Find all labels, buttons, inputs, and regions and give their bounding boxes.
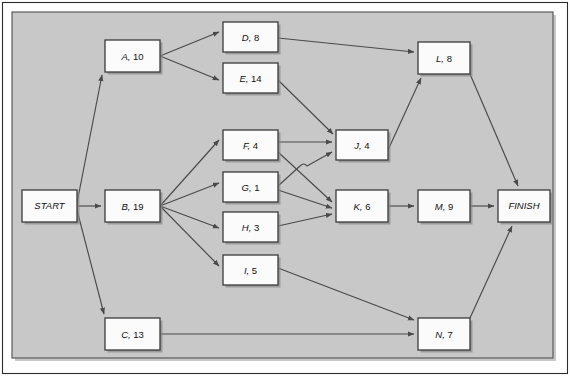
network-diagram-container: STARTA, 10B, 19C, 13D, 8E, 14F, 4G, 1H, … xyxy=(0,0,570,376)
node-label: H, 3 xyxy=(242,221,259,232)
node-h[interactable]: H, 3 xyxy=(223,212,281,245)
node-label: J, 4 xyxy=(353,139,369,150)
node-j[interactable]: J, 4 xyxy=(336,130,391,163)
node-label: A, 10 xyxy=(120,50,143,61)
node-d[interactable]: D, 8 xyxy=(223,22,281,55)
node-label: C, 13 xyxy=(121,328,144,339)
node-label: FINISH xyxy=(508,200,539,211)
node-g[interactable]: G, 1 xyxy=(223,172,281,205)
node-label: G, 1 xyxy=(242,181,260,192)
node-c[interactable]: C, 13 xyxy=(105,318,163,353)
node-b[interactable]: B, 19 xyxy=(105,190,163,225)
node-i[interactable]: I, 5 xyxy=(223,255,281,288)
node-e[interactable]: E, 14 xyxy=(223,63,281,96)
node-label: N, 7 xyxy=(435,328,452,339)
node-label: I, 5 xyxy=(244,264,257,275)
node-label: E, 14 xyxy=(239,72,261,83)
node-f[interactable]: F, 4 xyxy=(223,130,281,163)
node-start[interactable]: START xyxy=(22,190,80,225)
network-diagram-canvas: STARTA, 10B, 19C, 13D, 8E, 14F, 4G, 1H, … xyxy=(0,0,570,376)
node-l[interactable]: L, 8 xyxy=(418,42,473,77)
node-n[interactable]: N, 7 xyxy=(418,318,473,353)
node-m[interactable]: M, 9 xyxy=(418,190,473,225)
node-finish[interactable]: FINISH xyxy=(498,190,553,225)
node-k[interactable]: K, 6 xyxy=(336,190,391,225)
node-label: D, 8 xyxy=(242,31,259,42)
node-label: START xyxy=(34,200,65,211)
node-label: F, 4 xyxy=(243,139,258,150)
node-label: M, 9 xyxy=(435,200,454,211)
node-a[interactable]: A, 10 xyxy=(105,40,163,75)
node-label: L, 8 xyxy=(436,52,452,63)
node-label: K, 6 xyxy=(354,200,371,211)
node-label: B, 19 xyxy=(121,200,143,211)
